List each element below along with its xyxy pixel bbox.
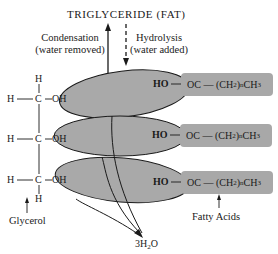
fatty-acid-box-3: OC — (CH2)nCH3 xyxy=(181,171,273,194)
condensation-subtext: (water removed) xyxy=(32,44,108,56)
fatty-acid-ho-2: HO xyxy=(152,129,168,140)
water-path-3 xyxy=(76,199,138,234)
chain-text: (CH xyxy=(216,79,233,90)
glycerol-label: Glycerol xyxy=(9,215,46,227)
water-arrowhead-icon xyxy=(134,229,143,238)
hydrolysis-subtext: (water added) xyxy=(128,44,190,56)
subscript-3: 3 xyxy=(256,132,260,140)
glycerol-c-2: C xyxy=(35,133,42,144)
bond-oval-1 xyxy=(57,63,192,125)
oc-text: OC xyxy=(187,79,201,90)
fatty-acid-box-2: OC — (CH2)nCH3 xyxy=(180,124,272,147)
ch-text: CH xyxy=(242,130,256,141)
glycerol-oh-1: OH xyxy=(52,93,66,104)
oc-text: OC xyxy=(187,177,201,188)
ch-text: CH xyxy=(243,79,257,90)
chain-text: (CH xyxy=(215,130,232,141)
bond-dash: — xyxy=(200,130,215,141)
subscript-3: 3 xyxy=(257,179,261,187)
fatty-acids-label: Fatty Acids xyxy=(192,211,240,223)
water-o: O xyxy=(151,238,158,249)
glycerol-c-3: C xyxy=(35,174,42,185)
glycerol-pointer-icon xyxy=(25,197,29,203)
glycerol-oh-2: OH xyxy=(52,133,66,144)
hydrolysis-text: Hydrolysis xyxy=(128,32,190,44)
bond-dash: — xyxy=(201,79,216,90)
subscript-3: 3 xyxy=(257,81,261,89)
bond-dash: — xyxy=(201,177,216,188)
hydrolysis-arrowhead-icon xyxy=(123,58,129,66)
condensation-text: Condensation xyxy=(32,32,108,44)
fatty-acid-ho-3: HO xyxy=(153,176,169,187)
glycerol-h-3: H xyxy=(7,174,14,185)
chain-text: (CH xyxy=(216,177,233,188)
glycerol-c-1: C xyxy=(35,93,42,104)
fatty-acids-pointer-icon xyxy=(217,194,221,200)
fatty-acid-ho-1: HO xyxy=(153,78,169,89)
condensation-arrowhead-icon xyxy=(105,23,111,31)
bond-oval-3 xyxy=(53,152,190,208)
water-formula: 3H2O xyxy=(135,238,158,251)
glycerol-oh-3: OH xyxy=(52,174,66,185)
glycerol-bottom-h: H xyxy=(35,193,42,204)
fatty-acid-box-1: OC — (CH2)nCH3 xyxy=(181,73,273,96)
oc-text: OC xyxy=(186,130,200,141)
hydrolysis-label: Hydrolysis (water added) xyxy=(128,32,190,56)
glycerol-top-h: H xyxy=(35,73,42,84)
diagram-title: TRIGLYCERIDE (FAT) xyxy=(67,8,186,20)
condensation-label: Condensation (water removed) xyxy=(32,32,108,56)
glycerol-h-1: H xyxy=(7,93,14,104)
glycerol-h-2: H xyxy=(7,133,14,144)
ch-text: CH xyxy=(243,177,257,188)
